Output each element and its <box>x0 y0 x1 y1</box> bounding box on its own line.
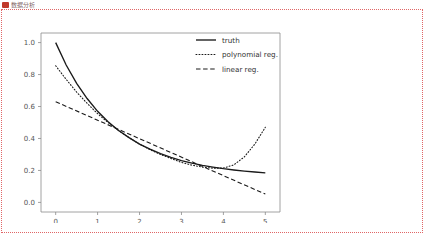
y-tick-label: 0.0 <box>24 199 35 207</box>
x-tick-label: 1 <box>95 218 99 223</box>
chart-legend: truthpolynomial reg.linear reg. <box>196 36 278 74</box>
series-line-polynomial-reg <box>56 66 266 168</box>
x-tick-label: 4 <box>221 218 226 223</box>
series-line-linear-reg <box>56 102 266 194</box>
app-icon <box>2 2 9 8</box>
y-tick-label: 0.8 <box>24 71 35 79</box>
chart-figure: 012345 0.00.20.40.60.81.0 truthpolynomia… <box>3 11 333 223</box>
window-title: 数据分析 <box>11 0 35 9</box>
regression-comparison-chart: 012345 0.00.20.40.60.81.0 truthpolynomia… <box>3 11 333 223</box>
legend-label: polynomial reg. <box>222 50 278 59</box>
legend-label: linear reg. <box>222 65 259 74</box>
y-tick-label: 0.4 <box>24 135 36 143</box>
content-container: 012345 0.00.20.40.60.81.0 truthpolynomia… <box>1 9 423 233</box>
screen-root: 数据分析 012345 0.00.20.40.60.81.0 truthpoly… <box>0 0 425 235</box>
y-tick-label: 0.6 <box>24 103 36 111</box>
y-tick-label: 1.0 <box>24 39 35 47</box>
window-header: 数据分析 <box>0 0 425 9</box>
x-axis-ticks: 012345 <box>53 212 267 223</box>
x-tick-label: 0 <box>53 218 57 223</box>
y-axis-ticks: 0.00.20.40.60.81.0 <box>24 39 41 207</box>
series-line-truth <box>56 43 266 173</box>
x-tick-label: 3 <box>179 218 183 223</box>
y-tick-label: 0.2 <box>24 167 35 175</box>
x-tick-label: 2 <box>137 218 141 223</box>
legend-label: truth <box>222 36 240 45</box>
content-panel: 012345 0.00.20.40.60.81.0 truthpolynomia… <box>3 11 421 231</box>
x-tick-label: 5 <box>263 218 267 223</box>
